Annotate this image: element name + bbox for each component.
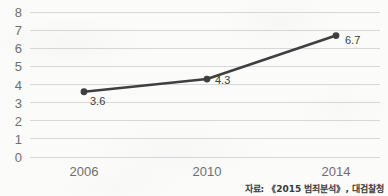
y-axis-tick-label: 2 — [2, 115, 22, 128]
data-series-line — [84, 36, 336, 92]
y-axis-tick-label: 8 — [2, 6, 22, 19]
source-note: 자료: 《2015 범죄분석》, 대검찰청 — [245, 185, 384, 194]
line-chart: 012345678 200620102014 3.64.36.7 자료: 《20… — [0, 0, 388, 196]
y-axis-tick-label: 7 — [2, 24, 22, 37]
series-line — [84, 36, 336, 92]
y-axis-tick-label: 5 — [2, 60, 22, 73]
data-point-label: 4.3 — [215, 75, 230, 86]
data-point-marker — [204, 76, 211, 83]
data-point-label: 3.6 — [90, 96, 105, 107]
gridlines — [30, 12, 380, 157]
y-axis-tick-label: 0 — [2, 151, 22, 164]
y-axis-tick-label: 1 — [2, 133, 22, 146]
x-axis-tick-label: 2006 — [54, 165, 114, 178]
y-axis-tick-label: 4 — [2, 79, 22, 92]
data-point-marker — [81, 88, 88, 95]
data-point-label: 6.7 — [345, 35, 360, 46]
x-axis-tick-label: 2014 — [306, 165, 366, 178]
data-point-marker — [333, 32, 340, 39]
data-point-markers — [81, 32, 340, 95]
x-axis-tick-label: 2010 — [177, 165, 237, 178]
y-axis-tick-label: 6 — [2, 42, 22, 55]
y-axis-tick-label: 3 — [2, 97, 22, 110]
